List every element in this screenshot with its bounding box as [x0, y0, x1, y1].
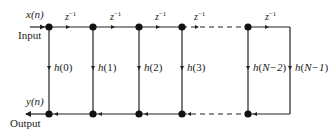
tap-arrow-icon [288, 66, 292, 70]
sum-arrow-icon [98, 112, 102, 116]
tap-arrow-icon [47, 66, 51, 70]
tap-coefficient-label: h(N−2) [253, 62, 286, 73]
branch-node [135, 23, 142, 30]
tap-coefficient-label: h(3) [187, 62, 205, 73]
tap-coefficient-label: h(0) [54, 62, 72, 73]
tap-arrow-icon [180, 66, 184, 70]
sum-node [178, 110, 185, 117]
delay-arrow-icon [111, 25, 115, 29]
delay-label: z−1 [65, 11, 76, 22]
output-signal-label: y(n) [26, 96, 44, 107]
tap-arrow-icon [137, 66, 141, 70]
delay-arrow-icon [265, 25, 269, 29]
delay-label: z−1 [110, 11, 121, 22]
branch-node [178, 23, 185, 30]
sum-node [45, 110, 52, 117]
sum-node [89, 110, 96, 117]
input-signal-label: x(n) [26, 9, 44, 20]
delay-arrow-icon [195, 25, 199, 29]
delay-label: z−1 [155, 11, 166, 22]
sum-arrow-icon [144, 112, 148, 116]
delay-label: z−1 [265, 11, 276, 22]
sum-arrow-icon [187, 112, 191, 116]
tap-arrow-icon [91, 66, 95, 70]
delay-label: z−1 [194, 11, 205, 22]
sum-node [244, 110, 251, 117]
branch-node [45, 23, 52, 30]
tap-coefficient-label: h(2) [144, 62, 162, 73]
branch-node [244, 23, 251, 30]
delay-arrow-icon [66, 25, 70, 29]
tap-coefficient-label: h(N−1) [295, 62, 328, 73]
tap-coefficient-label: h(1) [98, 62, 116, 73]
output-label: Output [10, 118, 41, 129]
fir-filter-diagram: x(n) Input y(n) Output z−1 z−1 z−1 z−1 z… [0, 0, 336, 134]
branch-node [89, 23, 96, 30]
sum-node [135, 110, 142, 117]
sum-arrow-icon [253, 112, 257, 116]
tap-arrow-icon [246, 66, 250, 70]
input-label: Input [18, 30, 41, 41]
delay-arrow-icon [156, 25, 160, 29]
sum-arrow-icon [54, 112, 58, 116]
